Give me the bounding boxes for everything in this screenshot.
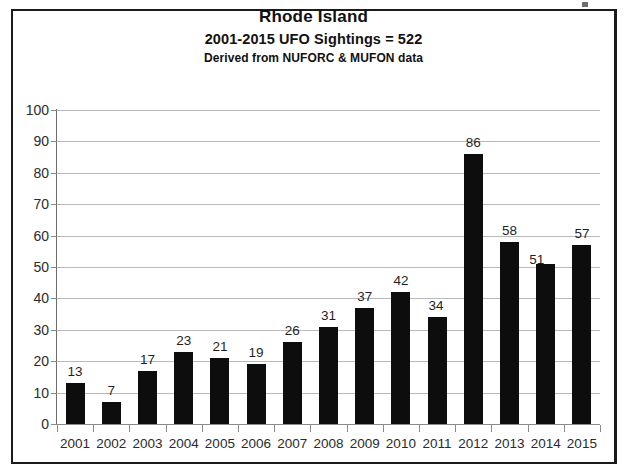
bar-2006 — [247, 364, 266, 424]
x-tick-mark-2009 — [347, 425, 348, 432]
bar-value-label-2002: 7 — [89, 384, 133, 398]
y-tick-label-20: 20 — [9, 354, 49, 368]
x-tick-label-2015: 2015 — [560, 436, 604, 451]
x-tick-mark-2010 — [383, 425, 384, 432]
bar-2009 — [355, 308, 374, 424]
x-tick-mark-2005 — [202, 425, 203, 432]
bar-value-label-2001: 13 — [53, 365, 97, 379]
bar-value-label-2015: 57 — [560, 227, 604, 241]
x-tick-mark-2001 — [57, 425, 58, 432]
y-tick-label-60: 60 — [9, 229, 49, 243]
bar-2002 — [102, 402, 121, 424]
chart-subtitle: 2001-2015 UFO Sightings = 522 — [0, 29, 627, 49]
bar-2012 — [464, 154, 483, 424]
gridline-70 — [57, 204, 600, 205]
x-tick-mark-2007 — [274, 425, 275, 432]
bar-2007 — [283, 342, 302, 424]
x-tick-mark-2014 — [528, 425, 529, 432]
bar-2008 — [319, 327, 338, 424]
bar-value-label-2008: 31 — [307, 309, 351, 323]
bar-value-label-2003: 17 — [126, 353, 170, 367]
x-tick-mark-2003 — [129, 425, 130, 432]
chart-title: Rhode Island — [0, 6, 627, 28]
bar-2005 — [210, 358, 229, 424]
bar-2013 — [500, 242, 519, 424]
scanned-page: Rhode Island 2001-2015 UFO Sightings = 5… — [0, 0, 627, 474]
bar-value-label-2007: 26 — [270, 324, 314, 338]
gridline-90 — [57, 141, 600, 142]
x-tick-mark-2008 — [310, 425, 311, 432]
x-tick-mark-2002 — [93, 425, 94, 432]
bar-value-label-2006: 19 — [234, 346, 278, 360]
y-tick-label-30: 30 — [9, 323, 49, 337]
gridline-0 — [57, 424, 600, 425]
x-tick-mark-2013 — [491, 425, 492, 432]
bar-2003 — [138, 371, 157, 424]
y-tick-label-40: 40 — [9, 291, 49, 305]
y-tick-label-90: 90 — [9, 134, 49, 148]
y-tick-label-10: 10 — [9, 386, 49, 400]
x-tick-mark-end — [600, 425, 601, 432]
bar-2004 — [174, 352, 193, 424]
chart-title-block: Rhode Island 2001-2015 UFO Sightings = 5… — [0, 6, 627, 67]
gridline-100 — [57, 110, 600, 111]
bar-2011 — [428, 317, 447, 424]
y-tick-label-50: 50 — [9, 260, 49, 274]
bar-value-label-2011: 34 — [414, 299, 458, 313]
gridline-80 — [57, 173, 600, 174]
plot-area — [57, 110, 600, 424]
bar-2010 — [391, 292, 410, 424]
bar-2014 — [536, 264, 555, 424]
y-tick-label-70: 70 — [9, 197, 49, 211]
bar-2015 — [572, 245, 591, 424]
bar-2001 — [66, 383, 85, 424]
y-tick-label-0: 0 — [9, 417, 49, 431]
y-tick-label-100: 100 — [9, 103, 49, 117]
y-tick-label-80: 80 — [9, 166, 49, 180]
bar-value-label-2012: 86 — [451, 136, 495, 150]
x-tick-mark-2006 — [238, 425, 239, 432]
x-tick-mark-2004 — [166, 425, 167, 432]
x-tick-mark-2011 — [419, 425, 420, 432]
x-tick-mark-2012 — [455, 425, 456, 432]
bar-value-label-2013: 58 — [488, 224, 532, 238]
x-tick-mark-2015 — [564, 425, 565, 432]
bar-value-label-2014: 51 — [515, 253, 559, 267]
chart-source-note: Derived from NUFORC & MUFON data — [0, 50, 627, 67]
bar-value-label-2010: 42 — [379, 274, 423, 288]
bar-value-label-2009: 37 — [343, 290, 387, 304]
